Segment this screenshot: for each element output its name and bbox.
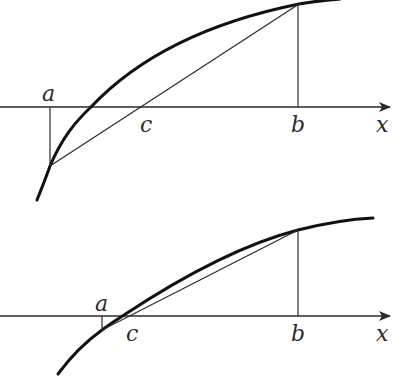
secant-method-diagram: a c b x a c b x [0, 0, 396, 378]
label-b: b [291, 321, 305, 346]
bottom-panel: a c b x [0, 218, 390, 374]
top-panel: a c b x [0, 0, 390, 200]
label-a: a [95, 291, 108, 316]
secant-chord [102, 230, 298, 330]
label-a: a [42, 81, 55, 106]
label-c: c [140, 112, 152, 137]
label-c: c [126, 321, 138, 346]
label-x-axis: x [376, 321, 389, 346]
secant-chord [50, 4, 299, 166]
label-b: b [291, 112, 305, 137]
label-x-axis: x [376, 112, 389, 137]
function-curve [37, 0, 340, 200]
